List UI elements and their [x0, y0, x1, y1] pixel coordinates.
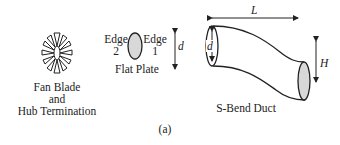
- fan-blade-label-line-2: and: [16, 93, 98, 105]
- edge-1-word: Edge: [143, 33, 167, 45]
- flat-plate-label: Flat Plate: [112, 63, 162, 75]
- s-bend-duct-shape: [206, 26, 310, 100]
- flat-plate-shape: [128, 33, 142, 59]
- edge-1-label: Edge 1: [143, 33, 167, 57]
- figure-caption: (a): [155, 123, 175, 135]
- duct-length-label: L: [251, 4, 257, 16]
- plate-d-label: d: [178, 40, 184, 52]
- fan-blade-label-line-3: Hub Termination: [16, 105, 98, 117]
- fan-blade-label: Fan Blade and Hub Termination: [16, 81, 98, 117]
- edge-1-number: 1: [143, 45, 167, 57]
- edge-2-word: Edge: [104, 33, 128, 45]
- fan-blade-label-line-1: Fan Blade: [16, 81, 98, 93]
- duct-offset-label: H: [320, 57, 328, 69]
- edge-2-label: Edge 2: [104, 33, 128, 57]
- s-bend-duct-label: S-Bend Duct: [215, 102, 277, 114]
- duct-d-label: d: [206, 40, 214, 52]
- edge-2-number: 2: [104, 45, 128, 57]
- fan-blade-icon: [42, 33, 72, 73]
